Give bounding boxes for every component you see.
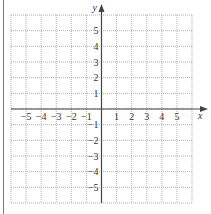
axes [11,4,208,203]
x-tick-label: 4 [159,111,164,122]
x-tick-label: −3 [51,111,62,122]
x-tick-label: 2 [129,111,134,122]
y-axis-arrow-icon [99,4,105,12]
y-tick-label: −1 [88,119,99,130]
y-tick-label: −4 [88,166,99,177]
y-tick-label: 4 [94,41,99,52]
y-axis-label: y [92,2,98,13]
y-tick-label: −2 [88,135,99,146]
coordinate-plane: −5−4−3−2−112345−5−4−3−2−112345 x y [0,0,211,214]
y-tick-label: −5 [88,182,99,193]
y-tick-label: 2 [94,72,99,83]
y-tick-label: −3 [88,151,99,162]
x-tick-label: 3 [144,111,149,122]
x-tick-label: 5 [174,111,179,122]
x-tick-label: −4 [36,111,47,122]
x-tick-label: −5 [21,111,32,122]
x-axis-label: x [197,110,203,121]
y-tick-label: 1 [94,88,99,99]
x-tick-label: 1 [114,111,119,122]
x-tick-label: −2 [66,111,77,122]
y-tick-label: 3 [94,57,99,68]
y-tick-label: 5 [94,25,99,36]
